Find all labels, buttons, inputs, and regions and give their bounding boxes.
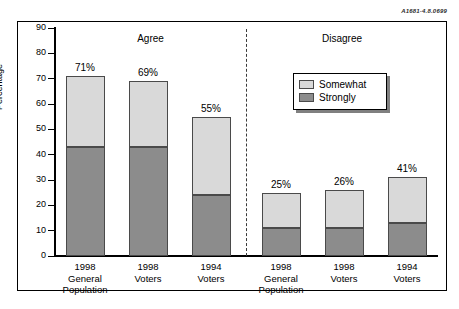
y-tick-label-70: 70 <box>24 74 46 83</box>
bar-5[interactable] <box>325 190 364 256</box>
y-tick-30 <box>48 180 55 181</box>
bar-4-segment-strongly[interactable] <box>262 228 301 256</box>
bar-6-segment-somewhat[interactable] <box>388 177 427 223</box>
reference-code: A1681-4.8.0699 <box>401 8 447 14</box>
bar-3-segment-somewhat[interactable] <box>192 117 231 196</box>
chart-figure: A1681-4.8.0699 Percentage 90807060504030… <box>0 0 459 309</box>
y-tick-label-50: 50 <box>24 124 46 133</box>
group-header-agree: Agree <box>55 33 246 44</box>
bar-1-segment-somewhat[interactable] <box>66 76 105 147</box>
bar-3-segment-strongly[interactable] <box>192 195 231 256</box>
legend-label-strongly: Strongly <box>319 93 356 103</box>
y-tick-20 <box>48 205 55 206</box>
bar-2-value-label: 69% <box>118 67 178 78</box>
category-label-6: 1994Voters <box>365 261 449 284</box>
bar-5-segment-strongly[interactable] <box>325 228 364 256</box>
bar-1[interactable] <box>66 76 105 256</box>
y-tick-label-40: 40 <box>24 150 46 159</box>
y-tick-label-30: 30 <box>24 175 46 184</box>
y-tick-80 <box>48 53 55 54</box>
y-tick-60 <box>48 104 55 105</box>
y-tick-10 <box>48 230 55 231</box>
y-tick-0 <box>48 256 55 257</box>
group-divider <box>246 29 247 256</box>
y-tick-70 <box>48 78 55 79</box>
legend-label-somewhat: Somewhat <box>319 80 366 90</box>
legend-item-somewhat: Somewhat <box>299 78 381 91</box>
y-tick-label-10: 10 <box>24 226 46 235</box>
legend-item-strongly: Strongly <box>299 91 381 104</box>
bar-1-value-label: 71% <box>55 62 115 73</box>
legend-swatch-strongly-icon <box>299 93 314 102</box>
bar-6-value-label: 41% <box>377 163 437 174</box>
bar-4-value-label: 25% <box>251 179 311 190</box>
bar-2-segment-strongly[interactable] <box>129 147 168 256</box>
bar-2[interactable] <box>129 81 168 256</box>
bar-3[interactable] <box>192 117 231 256</box>
bar-2-segment-somewhat[interactable] <box>129 81 168 147</box>
y-tick-90 <box>48 28 55 29</box>
bar-3-value-label: 55% <box>181 103 241 114</box>
bar-1-segment-strongly[interactable] <box>66 147 105 256</box>
y-tick-40 <box>48 154 55 155</box>
chart-legend: Somewhat Strongly <box>293 73 387 110</box>
bar-6-segment-strongly[interactable] <box>388 223 427 256</box>
bar-4[interactable] <box>262 193 301 256</box>
legend-swatch-somewhat-icon <box>299 80 314 89</box>
y-tick-label-90: 90 <box>24 23 46 32</box>
y-tick-label-80: 80 <box>24 48 46 57</box>
y-tick-label-0: 0 <box>24 251 46 260</box>
y-axis-title: Percentage <box>0 64 4 110</box>
y-tick-label-20: 20 <box>24 200 46 209</box>
group-header-disagree: Disagree <box>247 33 437 44</box>
y-tick-50 <box>48 129 55 130</box>
bar-4-segment-somewhat[interactable] <box>262 193 301 228</box>
bar-5-segment-somewhat[interactable] <box>325 190 364 228</box>
y-tick-label-60: 60 <box>24 99 46 108</box>
bar-5-value-label: 26% <box>314 176 374 187</box>
bar-6[interactable] <box>388 177 427 256</box>
